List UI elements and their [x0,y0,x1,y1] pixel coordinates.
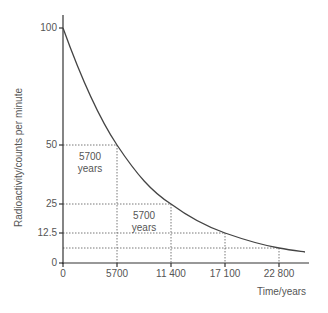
half-life-annotation-1: 5700 years [70,151,110,175]
decay-curve [63,28,305,252]
y-tick-12-5: 12.5 [27,227,57,238]
annotation-unit: years [124,222,164,234]
annotation-value: 5700 [124,210,164,222]
axes [59,15,309,267]
y-tick-0: 0 [27,257,57,268]
half-life-annotation-2: 5700 years [124,210,164,234]
annotation-value: 5700 [70,151,110,163]
x-tick-0: 0 [38,268,88,279]
x-tick-5700: 5700 [92,268,142,279]
y-tick-50: 50 [27,139,57,150]
y-axis-label: Radioactivity/counts per minute [13,78,24,238]
x-tick-22800: 22 800 [254,268,304,279]
y-tick-100: 100 [27,22,57,33]
annotation-unit: years [70,163,110,175]
x-tick-17100: 17 100 [200,268,250,279]
x-tick-11400: 11 400 [146,268,196,279]
x-axis-label: Time/years [257,286,306,297]
y-tick-25: 25 [27,198,57,209]
